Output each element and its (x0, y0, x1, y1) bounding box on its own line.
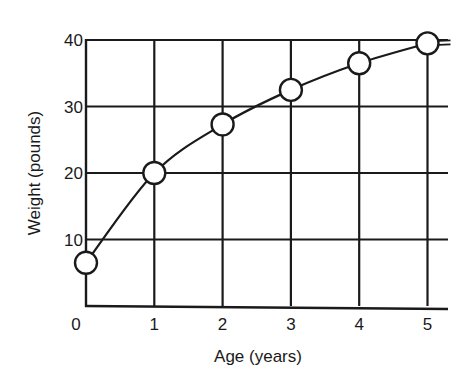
x-tick-4: 4 (354, 315, 363, 334)
data-point-2 (212, 113, 234, 135)
x-tick-1: 1 (150, 315, 159, 334)
weight-curve (86, 43, 428, 262)
x-tick-5: 5 (423, 315, 432, 334)
data-point-4 (348, 52, 370, 74)
growth-chart: 012345 10203040 Age (years) Weight (poun… (0, 0, 466, 383)
x-axis (85, 306, 448, 309)
data-point-5 (417, 32, 439, 54)
y-tick-40: 40 (64, 31, 83, 50)
data-point-3 (280, 79, 302, 101)
x-tick-2: 2 (218, 315, 227, 334)
y-tick-20: 20 (64, 164, 83, 183)
data-point-0 (75, 252, 97, 274)
x-tick-0: 0 (71, 315, 80, 334)
y-tick-labels: 10203040 (64, 31, 83, 250)
y-tick-30: 30 (64, 98, 83, 117)
data-points (75, 32, 439, 273)
data-point-1 (143, 162, 165, 184)
y-tick-10: 10 (64, 231, 83, 250)
y-axis-label: Weight (pounds) (25, 111, 44, 235)
x-tick-labels: 012345 (71, 315, 432, 334)
grid-lines (86, 40, 448, 306)
x-tick-3: 3 (286, 315, 295, 334)
x-axis-label: Age (years) (214, 347, 302, 366)
